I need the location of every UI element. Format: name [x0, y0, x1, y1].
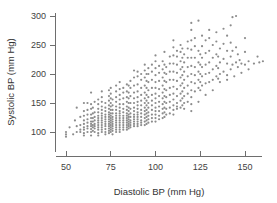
- data-point: [162, 97, 164, 99]
- data-point: [129, 124, 131, 126]
- data-point: [233, 75, 235, 77]
- data-point: [179, 51, 181, 53]
- data-point: [115, 129, 117, 131]
- data-point: [181, 74, 183, 76]
- data-point: [147, 111, 149, 113]
- data-point: [172, 109, 174, 111]
- x-ticks-layer: 5075100125150: [61, 151, 253, 172]
- data-point: [144, 97, 146, 99]
- data-point: [115, 90, 117, 92]
- data-point: [119, 122, 121, 124]
- data-point: [212, 89, 214, 91]
- data-point: [144, 102, 146, 104]
- data-point: [162, 91, 164, 93]
- data-point: [147, 122, 149, 124]
- data-point: [111, 133, 113, 135]
- data-point: [231, 50, 233, 52]
- data-point: [83, 132, 85, 134]
- data-point: [215, 53, 217, 55]
- data-point: [83, 102, 85, 104]
- data-point: [187, 101, 189, 103]
- data-point: [158, 115, 160, 117]
- data-point: [119, 81, 121, 83]
- data-point: [119, 103, 121, 105]
- data-point: [235, 15, 237, 17]
- data-point: [147, 81, 149, 83]
- data-point: [115, 119, 117, 121]
- data-point: [179, 107, 181, 109]
- data-point: [90, 91, 92, 93]
- data-point: [199, 64, 201, 66]
- data-point: [122, 87, 124, 89]
- data-point: [147, 73, 149, 75]
- data-point: [199, 53, 201, 55]
- y-tick-label: 100: [31, 127, 46, 137]
- data-point: [79, 116, 81, 118]
- data-point: [137, 123, 139, 125]
- data-point: [111, 125, 113, 127]
- data-point: [83, 110, 85, 112]
- data-point: [115, 105, 117, 107]
- data-point: [101, 122, 103, 124]
- data-point: [101, 117, 103, 119]
- x-axis-title: Diastolic BP (mm Hg): [114, 186, 205, 197]
- data-point: [212, 57, 214, 59]
- data-point: [183, 95, 185, 97]
- data-point: [215, 75, 217, 77]
- data-point: [154, 54, 156, 56]
- data-point: [154, 120, 156, 122]
- data-point: [187, 85, 189, 87]
- data-point: [108, 100, 110, 102]
- data-point: [179, 60, 181, 62]
- data-point: [222, 58, 224, 60]
- data-point: [181, 97, 183, 99]
- data-point: [111, 98, 113, 100]
- data-point: [154, 93, 156, 95]
- data-point: [76, 125, 78, 127]
- data-point: [190, 89, 192, 91]
- data-point: [237, 66, 239, 68]
- data-point: [86, 125, 88, 127]
- data-point: [111, 112, 113, 114]
- data-point: [176, 95, 178, 97]
- data-point: [140, 104, 142, 106]
- data-point: [199, 73, 201, 75]
- data-point: [158, 118, 160, 120]
- data-point: [122, 115, 124, 117]
- data-point: [79, 124, 81, 126]
- data-point: [162, 60, 164, 62]
- data-point: [119, 131, 121, 133]
- data-point: [101, 124, 103, 126]
- data-point: [217, 78, 219, 80]
- data-point: [101, 119, 103, 121]
- data-point: [129, 112, 131, 114]
- data-point: [154, 117, 156, 119]
- data-point: [187, 75, 189, 77]
- data-point: [119, 88, 121, 90]
- data-point: [179, 100, 181, 102]
- data-point: [128, 91, 130, 93]
- data-point: [83, 134, 85, 136]
- data-point: [163, 111, 165, 113]
- data-point: [129, 108, 131, 110]
- data-point: [144, 69, 146, 71]
- data-point: [97, 122, 99, 124]
- data-point: [129, 116, 131, 118]
- data-point: [115, 101, 117, 103]
- data-point: [133, 102, 135, 104]
- data-point: [172, 71, 174, 73]
- data-point: [169, 107, 171, 109]
- data-point: [122, 126, 124, 128]
- data-point: [74, 119, 76, 121]
- data-point: [165, 108, 167, 110]
- data-point: [197, 87, 199, 89]
- data-point: [217, 56, 219, 58]
- data-point: [147, 89, 149, 91]
- data-point: [97, 126, 99, 128]
- data-point: [145, 109, 147, 111]
- data-point: [115, 122, 117, 124]
- data-point: [122, 129, 124, 131]
- data-point: [258, 61, 260, 63]
- data-point: [133, 85, 135, 87]
- data-point: [101, 105, 103, 107]
